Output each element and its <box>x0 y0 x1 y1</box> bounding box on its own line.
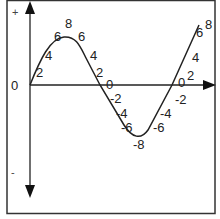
frame-border <box>7 1 215 214</box>
point-label: -6 <box>153 121 165 134</box>
diagram-canvas <box>0 0 220 219</box>
arrow-up-icon <box>25 1 35 14</box>
point-label: 6 <box>54 30 61 43</box>
point-label: 0 <box>178 76 185 89</box>
point-label: -2 <box>110 92 122 105</box>
point-label: 0 <box>106 78 113 91</box>
point-label: 6 <box>78 30 85 43</box>
point-label: 4 <box>192 51 199 64</box>
point-label: 4 <box>90 49 97 62</box>
point-label: 2 <box>96 66 103 79</box>
point-label: -2 <box>175 93 187 106</box>
point-label: 2 <box>187 69 194 82</box>
point-label: -8 <box>133 138 145 151</box>
arrow-right-icon <box>203 80 216 90</box>
point-label: 8 <box>65 17 72 30</box>
minus-label: - <box>11 167 15 178</box>
point-label: 6 <box>196 26 203 39</box>
zero-label: 0 <box>11 79 18 92</box>
point-label: -4 <box>160 107 172 120</box>
point-label: 8 <box>205 18 212 31</box>
point-label: 4 <box>45 49 52 62</box>
arrow-down-icon <box>25 185 35 198</box>
sine-wave-diagram: + 0 - 24686420-2-4-6-8-6-4-202468 <box>0 0 220 219</box>
point-label: -4 <box>116 107 128 120</box>
plus-label: + <box>12 7 18 18</box>
point-label: -6 <box>121 121 133 134</box>
point-label: 2 <box>36 66 43 79</box>
